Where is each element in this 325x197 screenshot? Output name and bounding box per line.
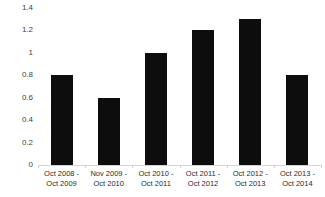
x-axis-tick-label-line1: Oct 2008 - xyxy=(44,169,79,178)
x-axis-tick-label-line1: Nov 2009 - xyxy=(90,169,127,178)
x-axis-tick-label-line1: Oct 2010 - xyxy=(138,169,173,178)
bar-chart: 1.41.210.80.60.40.20 Oct 2008 -Oct 2009N… xyxy=(0,0,325,197)
y-axis-tick-label: 0.2 xyxy=(22,139,33,147)
y-axis-tick-label: 1.4 xyxy=(22,4,33,12)
x-axis-tick-mark xyxy=(180,165,181,168)
y-axis-tick-label: 1.2 xyxy=(22,26,33,34)
bar[interactable] xyxy=(51,75,73,165)
x-axis-tick-label-line1: Oct 2012 - xyxy=(233,169,268,178)
x-axis-tick-label-line2: Oct 2011 xyxy=(132,179,179,189)
bar-slot xyxy=(132,8,179,165)
bar-slot xyxy=(180,8,227,165)
y-axis-tick-label: 0.6 xyxy=(22,94,33,102)
y-axis-tick-label: 0.4 xyxy=(22,116,33,124)
x-axis-tick-label-line2: Oct 2014 xyxy=(274,179,321,189)
x-axis-tick-label-line2: Oct 2009 xyxy=(38,179,85,189)
bar-slot xyxy=(38,8,85,165)
x-axis: Oct 2008 -Oct 2009Nov 2009 -Oct 2010Oct … xyxy=(38,169,321,195)
x-axis-tick-label: Oct 2012 -Oct 2013 xyxy=(227,169,274,188)
x-axis-tick-mark xyxy=(227,165,228,168)
x-axis-tick-label-line2: Oct 2010 xyxy=(85,179,132,189)
x-axis-tick-label: Oct 2010 -Oct 2011 xyxy=(132,169,179,188)
x-axis-tick-label: Oct 2013 -Oct 2014 xyxy=(274,169,321,188)
bar[interactable] xyxy=(145,53,167,165)
x-axis-tick-label: Oct 2008 -Oct 2009 xyxy=(38,169,85,188)
bar[interactable] xyxy=(192,30,214,165)
x-axis-tick-mark xyxy=(132,165,133,168)
bar-slot xyxy=(227,8,274,165)
x-axis-tick-label: Nov 2009 -Oct 2010 xyxy=(85,169,132,188)
x-axis-tick-label-line2: Oct 2012 xyxy=(180,179,227,189)
plot-area xyxy=(38,8,321,165)
x-axis-tick-mark xyxy=(85,165,86,168)
x-axis-tick-label-line2: Oct 2013 xyxy=(227,179,274,189)
x-axis-tick-label: Oct 2011 -Oct 2012 xyxy=(180,169,227,188)
bar[interactable] xyxy=(239,19,261,165)
bar-slot xyxy=(85,8,132,165)
y-axis: 1.41.210.80.60.40.20 xyxy=(0,0,38,197)
x-axis-tick-mark xyxy=(321,165,322,168)
x-axis-tick-label-line1: Oct 2013 - xyxy=(280,169,315,178)
x-axis-tick-mark xyxy=(274,165,275,168)
y-axis-tick-label: 1 xyxy=(29,49,33,57)
y-axis-tick-label: 0 xyxy=(29,161,33,169)
y-axis-tick-label: 0.8 xyxy=(22,71,33,79)
bar[interactable] xyxy=(98,98,120,165)
bar-slot xyxy=(274,8,321,165)
x-axis-tick-mark xyxy=(38,165,39,168)
x-axis-tick-label-line1: Oct 2011 - xyxy=(186,169,220,178)
bar[interactable] xyxy=(286,75,308,165)
